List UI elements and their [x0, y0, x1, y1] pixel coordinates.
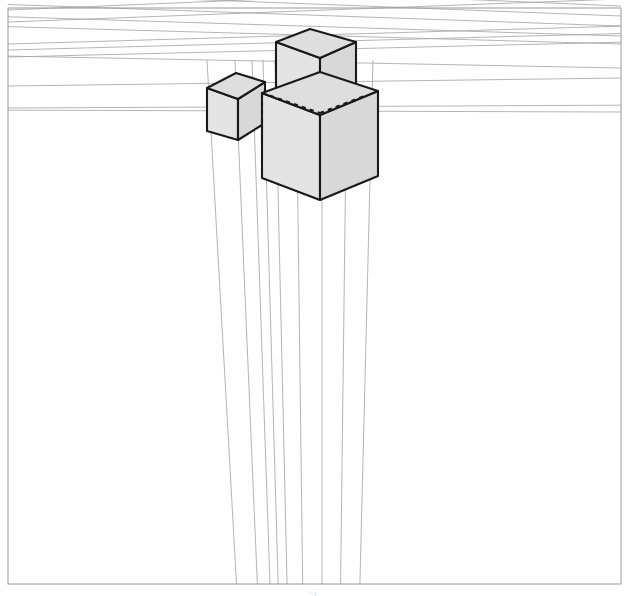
perspective-construction-figure: [0, 0, 629, 596]
perspective-drawing-canvas: fig.: [0, 0, 629, 596]
cube-large-front: [262, 72, 378, 200]
